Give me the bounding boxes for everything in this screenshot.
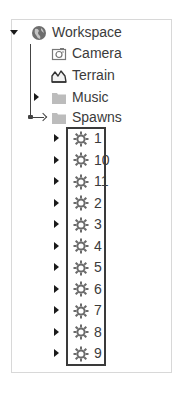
- tree-item-spawn-location[interactable]: 4: [54, 236, 102, 257]
- tree-item-spawn-location[interactable]: 3: [54, 214, 102, 235]
- tree-item-camera[interactable]: Camera: [51, 43, 122, 64]
- folder-icon: [51, 110, 67, 126]
- expand-arrow-collapsed-icon[interactable]: [54, 177, 59, 185]
- tree-connector-line: [30, 44, 31, 117]
- expand-arrow-collapsed-icon[interactable]: [54, 134, 59, 142]
- spawn-location-icon: [73, 238, 89, 254]
- tree-item-spawn-location[interactable]: 5: [54, 257, 102, 278]
- tree-item-label: 9: [94, 343, 102, 364]
- tree-item-label: 11: [94, 171, 109, 192]
- expand-arrow-collapsed-icon[interactable]: [54, 263, 59, 271]
- expand-arrow-collapsed-icon[interactable]: [54, 328, 59, 336]
- spawn-location-icon: [73, 131, 89, 147]
- tree-item-label: Music: [72, 87, 109, 108]
- spawn-location-icon: [73, 281, 89, 297]
- tree-item-music-content[interactable]: Music: [51, 87, 109, 108]
- expand-arrow-collapsed-icon[interactable]: [54, 349, 59, 357]
- tree-item-label: Workspace: [52, 22, 122, 43]
- tree-item-spawn-location[interactable]: 11: [54, 171, 109, 192]
- tree-item-label: 2: [94, 193, 102, 214]
- spawn-location-icon: [73, 152, 89, 168]
- spawn-location-icon: [73, 195, 89, 211]
- expand-arrow-collapsed-icon[interactable]: [54, 242, 59, 250]
- spawn-location-icon: [73, 303, 89, 319]
- tree-item-label: 6: [94, 279, 102, 300]
- tree-item-spawns[interactable]: Spawns: [51, 107, 122, 128]
- spawn-location-icon: [73, 260, 89, 276]
- tree-item-label: Spawns: [72, 107, 122, 128]
- tree-item-label: 1: [94, 128, 102, 149]
- expand-arrow-expanded-icon[interactable]: [10, 30, 18, 35]
- spawn-location-icon: [73, 346, 89, 362]
- tree-item-spawn-location[interactable]: 7: [54, 300, 102, 321]
- tree-item-terrain[interactable]: Terrain: [51, 65, 115, 86]
- spawn-location-icon: [73, 217, 89, 233]
- tree-item-spawn-location[interactable]: 9: [54, 343, 102, 364]
- expand-arrow-collapsed-icon[interactable]: [34, 93, 39, 101]
- expand-arrow-collapsed-icon[interactable]: [54, 220, 59, 228]
- tree-item-label: 3: [94, 214, 102, 235]
- expand-arrow-collapsed-icon[interactable]: [54, 199, 59, 207]
- workspace-globe-icon: [31, 25, 47, 41]
- expand-arrow-collapsed-icon[interactable]: [54, 306, 59, 314]
- tree-item-label: Camera: [72, 43, 122, 64]
- tree-item-spawn-location[interactable]: 1: [54, 128, 102, 149]
- tree-item-spawn-location[interactable]: 6: [54, 279, 102, 300]
- tree-item-workspace-content[interactable]: Workspace: [31, 22, 122, 43]
- terrain-icon: [51, 68, 67, 84]
- tree-item-label: 4: [94, 236, 102, 257]
- tree-item-label: 7: [94, 300, 102, 321]
- spawn-location-icon: [73, 324, 89, 340]
- camera-icon: [51, 46, 67, 62]
- tree-item-label: 5: [94, 257, 102, 278]
- expand-arrow-collapsed-icon[interactable]: [54, 285, 59, 293]
- tree-item-spawn-location[interactable]: 2: [54, 193, 102, 214]
- spawn-location-icon: [73, 174, 89, 190]
- folder-icon: [51, 90, 67, 106]
- tree-item-spawn-location[interactable]: 8: [54, 322, 102, 343]
- tree-item-spawn-location[interactable]: 10: [54, 150, 110, 171]
- tree-item-label: 10: [94, 150, 110, 171]
- expand-arrow-collapsed-icon[interactable]: [54, 156, 59, 164]
- tree-item-label: Terrain: [72, 65, 115, 86]
- tree-item-label: 8: [94, 322, 102, 343]
